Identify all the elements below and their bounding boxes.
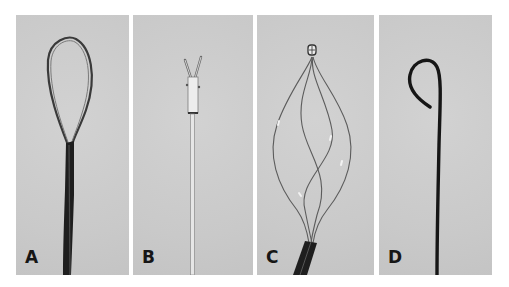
basket-illustration [257,15,374,275]
panel-b-forceps: B [133,15,253,275]
panel-label-b: B [142,247,155,267]
snare-illustration [16,15,129,275]
panel-c-basket: C [257,15,374,275]
panel-d-guidewire: D [379,15,492,275]
panel-label-d: D [388,247,402,267]
guidewire-illustration [379,15,492,275]
panel-label-c: C [266,247,278,267]
panel-label-a: A [25,247,38,267]
forceps-illustration [133,15,253,275]
panel-a-snare: A [16,15,129,275]
